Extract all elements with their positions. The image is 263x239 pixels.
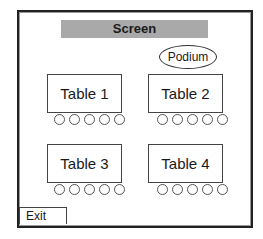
chair xyxy=(84,184,95,195)
chair xyxy=(69,114,80,125)
table-4: Table 4 xyxy=(148,144,223,183)
chair xyxy=(84,114,95,125)
chair xyxy=(157,114,168,125)
chair xyxy=(202,114,213,125)
chair xyxy=(172,184,183,195)
table-3-chairs xyxy=(54,184,125,195)
chair xyxy=(114,114,125,125)
chair xyxy=(187,184,198,195)
chair xyxy=(202,184,213,195)
chair xyxy=(99,114,110,125)
chair xyxy=(217,184,228,195)
chair xyxy=(99,184,110,195)
chair xyxy=(54,184,65,195)
chair xyxy=(217,114,228,125)
podium: Podium xyxy=(159,45,217,69)
chair xyxy=(69,184,80,195)
chair xyxy=(157,184,168,195)
table-3: Table 3 xyxy=(47,144,122,183)
chair xyxy=(187,114,198,125)
table-4-chairs xyxy=(157,184,228,195)
table-2-chairs xyxy=(157,114,228,125)
chair xyxy=(54,114,65,125)
chair xyxy=(172,114,183,125)
table-2: Table 2 xyxy=(148,74,223,113)
exit-door: Exit xyxy=(19,207,67,224)
chair xyxy=(114,184,125,195)
table-1: Table 1 xyxy=(47,74,122,113)
screen: Screen xyxy=(61,20,208,38)
table-1-chairs xyxy=(54,114,125,125)
